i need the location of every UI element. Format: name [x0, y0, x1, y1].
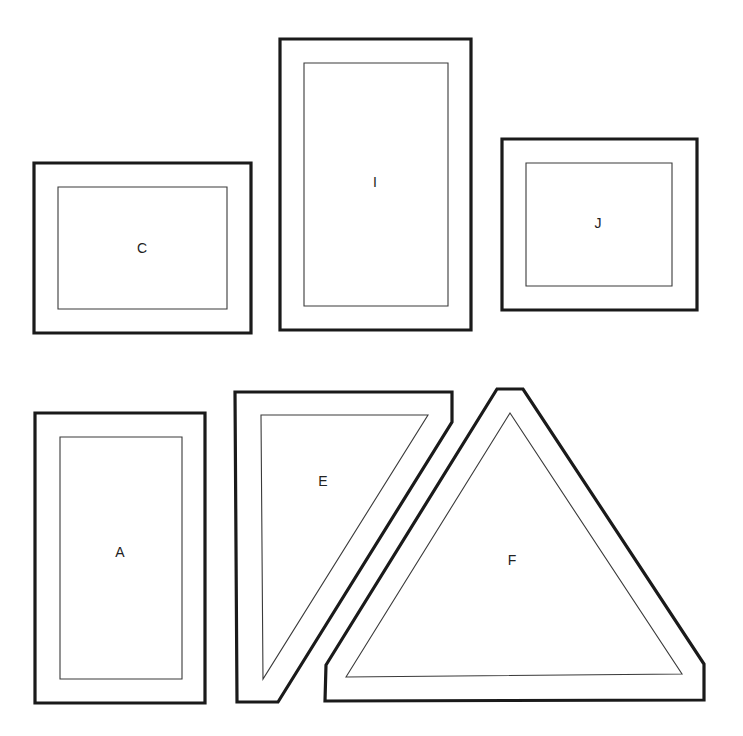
piece-j-label: J — [595, 215, 602, 231]
piece-a-label: A — [115, 544, 125, 560]
piece-c-label: C — [137, 240, 147, 256]
piece-f-label: F — [508, 552, 517, 568]
piece-i: I — [280, 39, 471, 330]
piece-j: J — [502, 139, 697, 310]
piece-a: A — [35, 413, 205, 703]
piece-i-label: I — [373, 174, 377, 190]
piece-e-label: E — [318, 473, 327, 489]
piece-c: C — [34, 163, 251, 333]
pattern-pieces-diagram: CIJAEF — [0, 0, 743, 736]
